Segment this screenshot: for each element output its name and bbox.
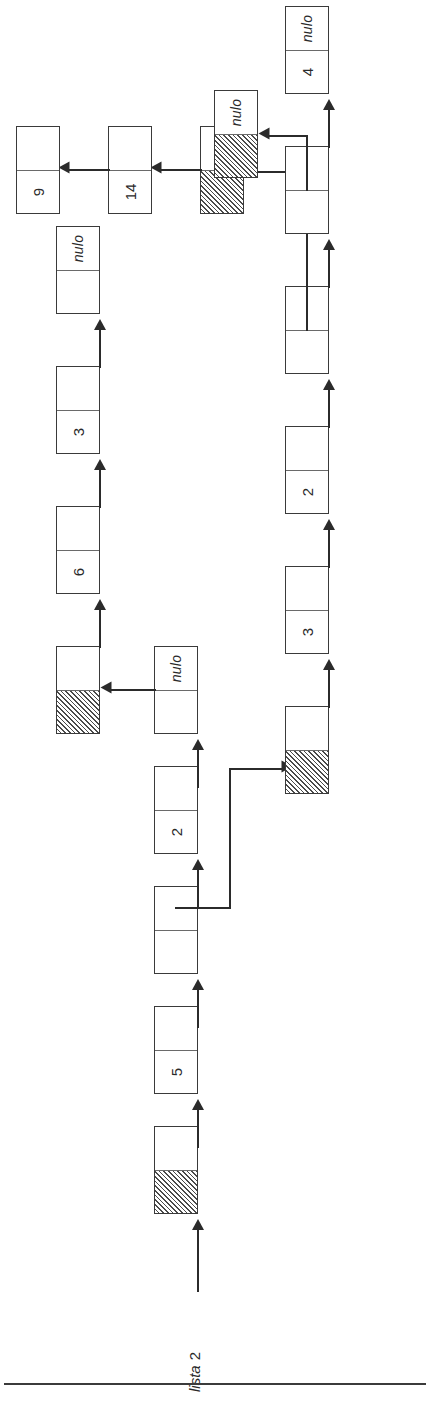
node-suba-0-data <box>57 690 99 733</box>
node-main-3-data: 2 <box>155 810 197 853</box>
link-subb-2-head <box>323 379 335 390</box>
link-main-1-head <box>192 979 204 990</box>
link-main-2-shaft <box>197 866 199 908</box>
cross-main4-seg-v <box>110 689 156 691</box>
link-suba-0-shaft <box>99 606 101 648</box>
link-suba-0-head <box>94 599 106 610</box>
node-subb-2-data: 2 <box>286 470 328 513</box>
list-label-index: 2 <box>186 1352 203 1365</box>
node-subb-4-data <box>286 190 328 233</box>
link-subb-1-shaft <box>328 526 330 568</box>
node-suba-0 <box>56 646 100 734</box>
node-suba-1-data: 6 <box>57 550 99 593</box>
node-subb-5-data: 4 <box>286 50 328 93</box>
head-arrow-head <box>192 1219 204 1230</box>
link-subc-0-shaft <box>160 169 202 171</box>
head-arrow-shaft <box>197 1228 199 1292</box>
node-subc-2-pointer <box>17 127 59 170</box>
node-main-4-data <box>155 690 197 733</box>
list-label: lista2 <box>186 1352 203 1392</box>
link-main-3-head <box>192 739 204 750</box>
node-subd-0: nulo <box>214 90 258 178</box>
link-subb-3-head <box>323 239 335 250</box>
node-main-0-pointer <box>155 1127 197 1170</box>
node-subc-1: 14 <box>108 126 152 214</box>
node-suba-1-pointer <box>57 507 99 550</box>
node-subb-1-data: 3 <box>286 610 328 653</box>
page-rule <box>4 1383 426 1385</box>
node-suba-0-pointer <box>57 647 99 690</box>
cross-subb4-seg-h <box>306 135 308 191</box>
node-suba-2: 3 <box>56 366 100 454</box>
node-main-0 <box>154 1126 198 1214</box>
node-main-4: nulo <box>154 646 198 734</box>
node-suba-1: 6 <box>56 506 100 594</box>
node-subc-2: 9 <box>16 126 60 214</box>
link-subc-1-head <box>59 162 70 174</box>
node-subc-1-pointer <box>109 127 151 170</box>
link-subb-0-shaft <box>328 666 330 708</box>
node-suba-2-data: 3 <box>57 410 99 453</box>
node-subd-0-data <box>215 134 257 177</box>
link-subb-1-head <box>323 519 335 530</box>
link-subc-0-head <box>151 162 162 174</box>
link-subb-4-head <box>323 99 335 110</box>
node-suba-2-pointer <box>57 367 99 410</box>
link-suba-2-head <box>94 319 106 330</box>
node-subb-5: 4 nulo <box>285 6 329 94</box>
node-main-1: 5 <box>154 1006 198 1094</box>
cross-main2-seg-h <box>229 768 231 909</box>
node-subb-1: 3 <box>285 566 329 654</box>
node-suba-3-pointer: nulo <box>57 227 99 270</box>
link-subb-0-head <box>323 659 335 670</box>
node-subb-2: 2 <box>285 426 329 514</box>
link-main-1-shaft <box>197 986 199 1028</box>
link-subb-2-shaft <box>328 386 330 428</box>
link-suba-1-shaft <box>99 466 101 508</box>
link-suba-2-shaft <box>99 326 101 368</box>
node-subb-0-data <box>286 750 328 793</box>
link-suba-1-head <box>94 459 106 470</box>
null-label: nulo <box>228 99 244 126</box>
node-subc-1-data: 14 <box>109 170 151 213</box>
node-main-2 <box>154 886 198 974</box>
node-subb-5-pointer: nulo <box>286 7 328 50</box>
link-main-0-head <box>192 1099 204 1110</box>
node-subb-3-data <box>286 330 328 373</box>
node-main-3-pointer <box>155 767 197 810</box>
node-suba-3-data <box>57 270 99 313</box>
node-subd-0-pointer: nulo <box>215 91 257 134</box>
node-suba-3: nulo <box>56 226 100 314</box>
link-subb-4-shaft <box>328 106 330 148</box>
node-subb-0 <box>285 706 329 794</box>
list-label-name: lista <box>186 1365 203 1392</box>
cross-main4-head <box>101 682 112 694</box>
null-label: nulo <box>168 655 184 682</box>
node-subb-1-pointer <box>286 567 328 610</box>
link-subc-1-shaft <box>68 169 110 171</box>
node-subb-2-pointer <box>286 427 328 470</box>
link-main-0-shaft <box>197 1106 199 1148</box>
cross-subb4-seg-v <box>268 135 308 137</box>
node-subc-2-data: 9 <box>17 170 59 213</box>
node-main-2-data <box>155 930 197 973</box>
node-main-1-pointer <box>155 1007 197 1050</box>
node-main-4-pointer: nulo <box>155 647 197 690</box>
link-subb-3-shaft <box>328 246 330 288</box>
link-main-3-shaft <box>197 746 199 788</box>
diagram-canvas: lista2 5 2 <box>0 0 430 1414</box>
node-subb-0-pointer <box>286 707 328 750</box>
linked-list-figure: lista2 5 2 <box>0 0 430 1414</box>
node-main-3: 2 <box>154 766 198 854</box>
node-main-1-data: 5 <box>155 1050 197 1093</box>
cross-main2-seg-v1 <box>175 907 231 909</box>
null-label: nulo <box>70 235 86 262</box>
link-main-2-head <box>192 859 204 870</box>
node-main-0-data <box>155 1170 197 1213</box>
cross-main2-seg-v2 <box>229 768 285 770</box>
null-label: nulo <box>299 15 315 42</box>
cross-subb4-head <box>259 128 270 140</box>
